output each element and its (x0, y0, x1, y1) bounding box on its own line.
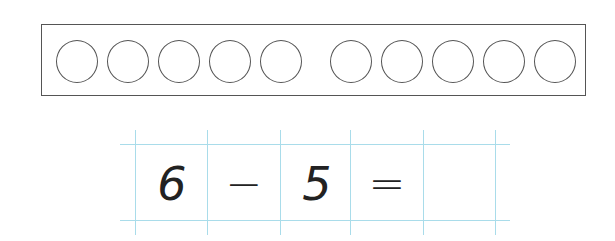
minuend-digit: 6 (136, 150, 208, 218)
answer-box[interactable] (424, 150, 496, 218)
subtrahend-digit: 5 (281, 150, 353, 218)
grid-line-top (120, 144, 510, 145)
grid-line-bottom (120, 220, 510, 221)
minus-sign: − (208, 150, 280, 218)
equals-sign: = (351, 150, 423, 218)
equation-grid: 6 − 5 = (0, 0, 615, 241)
